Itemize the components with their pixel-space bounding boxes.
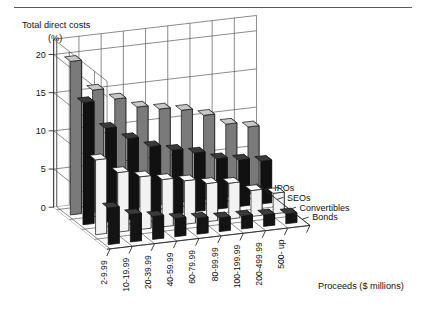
x-tick-3: [173, 241, 176, 248]
x-category-label-1: 10-19.99: [121, 258, 131, 292]
chart-container: 05101520 2-9.9910-19.9920-39.9940-59.996…: [0, 0, 426, 318]
bar-front-face: [153, 215, 164, 239]
x-category-label-5: 80-99.99: [210, 247, 220, 281]
bar-front-face: [130, 213, 141, 242]
x-tick-5: [218, 236, 221, 243]
x-tick-1: [129, 246, 132, 253]
y-tick-label-20: 20: [36, 50, 46, 60]
y-tick-label-0: 0: [41, 203, 46, 213]
x-tick-8: [284, 228, 287, 235]
x-tick-7: [262, 231, 265, 238]
bar-front-face: [108, 207, 119, 245]
y-tick-label-10: 10: [36, 126, 46, 136]
y-axis-unit: (%): [48, 33, 62, 43]
series-tick-bonds: [302, 217, 309, 219]
legend-label-convertibles: Convertibles: [300, 203, 351, 213]
x-tick-0: [107, 249, 110, 256]
bar-front-face: [83, 101, 94, 224]
bar-front-face: [241, 215, 252, 229]
y-axis-title: Total direct costs: [22, 20, 91, 30]
x-category-label-6: 100-199.99: [232, 245, 242, 289]
bar-front-face: [264, 214, 275, 227]
x-tick-2: [151, 244, 154, 251]
legend-label-bonds: Bonds: [312, 212, 338, 222]
bar-front-face: [175, 217, 186, 237]
bar-front-face: [219, 217, 230, 232]
x-category-label-2: 20-39.99: [143, 255, 153, 289]
x-category-label-7: 200-499.99: [254, 242, 264, 286]
bar-front-face: [70, 60, 81, 215]
x-tick-9: [307, 225, 310, 232]
x-category-label-3: 40-59.99: [165, 252, 175, 286]
three-d-bar-chart: 05101520 2-9.9910-19.9920-39.9940-59.996…: [0, 0, 426, 318]
y-tick-label-5: 5: [41, 164, 46, 174]
x-category-label-8: 500- up: [276, 239, 286, 268]
legend-label-ipos: IPOs: [274, 183, 295, 193]
x-category-label-4: 60-79.99: [187, 250, 197, 284]
legend-label-seos: SEOs: [287, 193, 311, 203]
y-tick-label-15: 15: [36, 88, 46, 98]
bar-front-face: [197, 217, 208, 234]
x-tick-6: [240, 233, 243, 240]
bar-front-face: [96, 159, 107, 235]
x-category-label-0: 2-9.99: [99, 260, 109, 285]
x-axis-title: Proceeds ($ millions): [318, 281, 404, 291]
x-tick-4: [196, 238, 199, 245]
